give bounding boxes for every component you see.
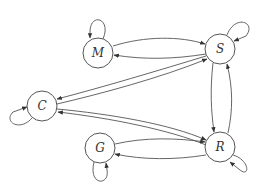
- edge-R-S: [227, 64, 232, 133]
- state-diagram: M S C G R: [0, 0, 260, 189]
- edge-R-C: [58, 112, 206, 145]
- edge-S-M: [114, 54, 206, 58]
- edge-S-R: [211, 63, 214, 132]
- node-G: G: [85, 133, 115, 163]
- node-label-C: C: [37, 99, 46, 113]
- edge-M-M: [90, 20, 105, 39]
- node-M: M: [83, 38, 113, 68]
- node-S: S: [205, 34, 235, 64]
- node-C: C: [27, 91, 57, 121]
- edge-C-R: [57, 109, 206, 140]
- node-label-R: R: [214, 140, 224, 154]
- edge-R-G: [115, 154, 206, 159]
- edge-S-C: [57, 56, 206, 99]
- node-label-G: G: [95, 141, 105, 155]
- edge-G-G: [93, 162, 107, 181]
- node-label-S: S: [216, 42, 224, 56]
- edge-C-S: [57, 59, 207, 104]
- edge-M-S: [113, 38, 205, 46]
- node-label-M: M: [91, 46, 105, 60]
- edge-R-R: [230, 155, 247, 172]
- node-R: R: [205, 132, 235, 162]
